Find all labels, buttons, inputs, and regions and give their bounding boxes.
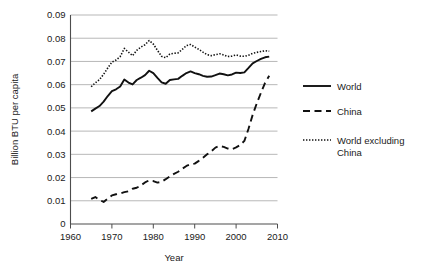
y-tick-label: 0.08 [47, 33, 66, 44]
axes [71, 15, 278, 229]
legend-label-world-excluding-china-line2: China [337, 147, 363, 158]
x-tick-label: 1970 [101, 231, 122, 242]
x-tick-label: 2010 [267, 231, 288, 242]
x-tick-label: 1960 [60, 231, 81, 242]
y-tick-label: 0.01 [47, 195, 66, 206]
y-tick-label: 0 [60, 218, 65, 229]
x-axis-title: Year [164, 252, 183, 263]
legend-label-world-excluding-china: World excluding [337, 135, 404, 146]
series-line-world [91, 57, 269, 112]
x-axis-tick-labels: 196019701980199020002010 [60, 231, 288, 242]
y-tick-label: 0.04 [47, 126, 66, 137]
series-line-world-excluding-china [91, 41, 269, 87]
x-tick-label: 2000 [226, 231, 247, 242]
y-axis-tick-labels: 00.010.020.030.040.050.060.070.080.09 [47, 9, 66, 229]
x-tick-label: 1990 [184, 231, 205, 242]
y-tick-label: 0.06 [47, 79, 66, 90]
y-tick-label: 0.02 [47, 172, 66, 183]
line-chart: 00.010.020.030.040.050.060.070.080.09 19… [0, 0, 421, 271]
y-tick-label: 0.05 [47, 102, 66, 113]
y-tick-label: 0.07 [47, 56, 66, 67]
chart-figure: 00.010.020.030.040.050.060.070.080.09 19… [0, 0, 421, 271]
x-tick-label: 1980 [143, 231, 164, 242]
legend-label-china: China [337, 106, 363, 117]
y-tick-label: 0.03 [47, 149, 66, 160]
y-tick-label: 0.09 [47, 9, 66, 20]
y-axis-title: Billion BTU per capita [9, 73, 20, 165]
series-line-china [91, 76, 269, 202]
legend-label-world: World [337, 81, 362, 92]
legend: WorldChinaWorld excludingChina [303, 81, 404, 158]
